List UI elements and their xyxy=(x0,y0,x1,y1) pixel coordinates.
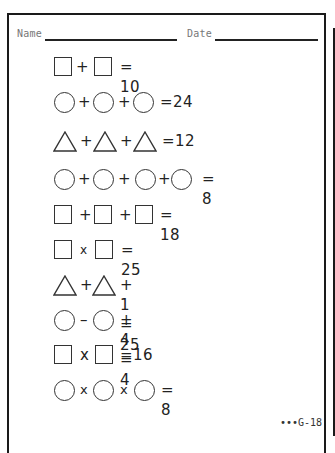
equation-result: = 8 xyxy=(202,169,215,209)
plus-operator: + xyxy=(80,275,93,295)
circle-blank-icon[interactable] xyxy=(171,169,192,190)
plus-operator: + xyxy=(78,92,91,112)
triangle-blank-icon[interactable] xyxy=(93,131,117,152)
plus-operator: + xyxy=(158,169,171,189)
times-operator: x xyxy=(80,380,88,400)
circle-blank-icon[interactable] xyxy=(93,169,114,190)
square-blank-icon[interactable] xyxy=(54,345,72,364)
equation-result: = 10 xyxy=(120,57,140,97)
circle-blank-icon[interactable] xyxy=(54,310,75,331)
circle-blank-icon[interactable] xyxy=(54,92,75,113)
plus-operator: + xyxy=(79,205,92,225)
worksheet-code: •••G-18 xyxy=(280,417,322,428)
times-operator: x xyxy=(80,345,89,365)
circle-blank-icon[interactable] xyxy=(135,169,156,190)
equation-result: =16 xyxy=(120,345,153,365)
plus-operator: + xyxy=(76,57,89,77)
square-blank-icon[interactable] xyxy=(54,240,72,259)
name-field-line[interactable] xyxy=(45,39,177,41)
square-blank-icon[interactable] xyxy=(54,57,72,76)
plus-operator: + xyxy=(118,92,131,112)
square-blank-icon[interactable] xyxy=(94,205,112,224)
equation-result: =12 xyxy=(162,131,195,151)
date-label: Date xyxy=(187,28,212,39)
equation-result: =24 xyxy=(160,92,193,112)
plus-operator: + xyxy=(80,131,93,151)
times-operator: x xyxy=(120,380,128,400)
triangle-blank-icon[interactable] xyxy=(133,131,157,152)
date-field-line[interactable] xyxy=(215,39,318,41)
circle-blank-icon[interactable] xyxy=(133,92,154,113)
plus-operator: + xyxy=(118,169,131,189)
minus-operator: – xyxy=(80,310,88,330)
square-blank-icon[interactable] xyxy=(95,240,113,259)
equation-result: = 25 xyxy=(121,240,141,280)
circle-blank-icon[interactable] xyxy=(54,380,75,401)
times-operator: x xyxy=(80,240,87,260)
triangle-blank-icon[interactable] xyxy=(92,275,116,296)
circle-blank-icon[interactable] xyxy=(134,380,155,401)
square-blank-icon[interactable] xyxy=(95,345,113,364)
plus-operator: + xyxy=(120,131,133,151)
equation-result: = 18 xyxy=(160,205,180,245)
circle-blank-icon[interactable] xyxy=(54,169,75,190)
name-label: Name xyxy=(17,28,42,39)
square-blank-icon[interactable] xyxy=(94,57,112,76)
triangle-blank-icon[interactable] xyxy=(53,131,77,152)
square-blank-icon[interactable] xyxy=(54,205,72,224)
equation-result: = 8 xyxy=(161,380,174,420)
plus-operator: + xyxy=(119,205,132,225)
square-blank-icon[interactable] xyxy=(135,205,153,224)
triangle-blank-icon[interactable] xyxy=(53,275,77,296)
circle-blank-icon[interactable] xyxy=(93,92,114,113)
circle-blank-icon[interactable] xyxy=(93,380,114,401)
plus-operator: + xyxy=(78,169,91,189)
circle-blank-icon[interactable] xyxy=(93,310,114,331)
